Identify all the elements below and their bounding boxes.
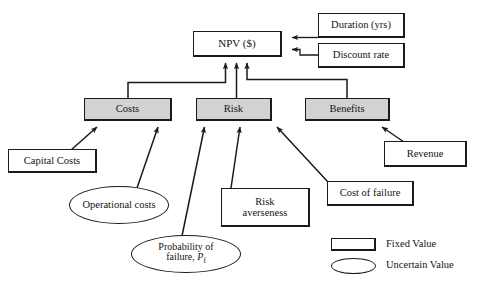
- edge-costs-to-npv: [128, 63, 226, 98]
- node-npv-label: NPV ($): [216, 38, 257, 50]
- node-capital-costs-label: Capital Costs: [22, 155, 82, 166]
- influence-diagram: NPV ($) Duration (yrs) Discount rate Cos…: [0, 0, 481, 286]
- node-operational-costs-label: Operational costs: [80, 199, 157, 210]
- node-costs-label: Costs: [114, 103, 141, 114]
- node-capital-costs[interactable]: Capital Costs: [8, 149, 97, 173]
- legend-fixed-value-swatch: [331, 238, 376, 251]
- node-probability-of-failure-label: Probability of failure, Pf: [156, 242, 215, 266]
- edge-risk-averseness-to-risk: [231, 127, 240, 188]
- node-probability-of-failure[interactable]: Probability of failure, Pf: [131, 235, 241, 273]
- node-probability-of-failure-line2-prefix: failure,: [166, 251, 197, 262]
- node-duration[interactable]: Duration (yrs): [318, 13, 405, 38]
- edge-capital-costs-to-costs: [71, 127, 97, 150]
- legend-uncertain-value-label: Uncertain Value: [386, 259, 454, 270]
- legend-fixed-value-label: Fixed Value: [386, 238, 436, 249]
- edge-probability-of-failure-to-risk: [182, 127, 205, 236]
- node-risk[interactable]: Risk: [196, 98, 272, 121]
- node-cost-of-failure-label: Cost of failure: [338, 187, 403, 198]
- node-revenue[interactable]: Revenue: [384, 141, 467, 167]
- edge-cost-of-failure-to-risk: [277, 127, 328, 182]
- node-risk-averseness-line2: averseness: [243, 207, 288, 218]
- node-probability-of-failure-line1: Probability of: [158, 241, 213, 252]
- node-npv[interactable]: NPV ($): [193, 31, 282, 57]
- node-discount-rate-label: Discount rate: [331, 49, 391, 60]
- node-risk-label: Risk: [222, 103, 245, 114]
- edge-operational-costs-to-costs: [137, 127, 158, 188]
- node-discount-rate[interactable]: Discount rate: [318, 43, 405, 68]
- node-revenue-label: Revenue: [405, 148, 446, 159]
- edge-discount-to-npv: [292, 50, 318, 56]
- edge-benefits-to-npv: [247, 63, 347, 98]
- node-probability-of-failure-subscript: f: [203, 257, 205, 265]
- node-benefits-label: Benefits: [328, 103, 367, 114]
- node-benefits[interactable]: Benefits: [305, 98, 390, 121]
- node-operational-costs[interactable]: Operational costs: [69, 186, 169, 224]
- node-risk-averseness[interactable]: Risk averseness: [221, 188, 310, 227]
- legend-uncertain-value-swatch: [331, 258, 376, 274]
- edge-revenue-to-benefits: [382, 127, 404, 142]
- node-risk-averseness-label: Risk averseness: [241, 196, 290, 218]
- node-costs[interactable]: Costs: [84, 98, 172, 121]
- node-duration-label: Duration (yrs): [329, 19, 393, 30]
- node-cost-of-failure[interactable]: Cost of failure: [327, 181, 414, 206]
- node-risk-averseness-line1: Risk: [255, 196, 274, 207]
